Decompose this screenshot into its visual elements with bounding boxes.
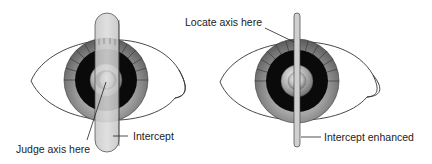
right-intercept-rod (294, 13, 300, 147)
right-lacrimal-corner (367, 75, 380, 97)
intercept-enhanced-label: Intercept enhanced (324, 132, 414, 143)
judge-axis-label: Judge axis here (16, 144, 90, 155)
locate-axis-label: Locate axis here (185, 17, 262, 28)
intercept-label: Intercept (133, 131, 174, 142)
left-lacrimal-corner (175, 70, 185, 98)
locate-axis-pointer (265, 28, 294, 42)
right-eye (220, 13, 380, 147)
left-intercept-strip (95, 13, 119, 152)
